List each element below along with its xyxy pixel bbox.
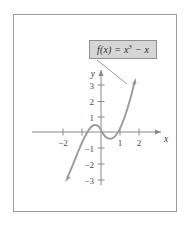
cubic-tail: − x xyxy=(132,45,149,56)
x-tick-label-1: 1 xyxy=(118,138,123,148)
cubic-plot: −2 1 2 3 2 1 −1 −2 −3 y x xyxy=(0,0,193,229)
y-tick-label-minus2: −2 xyxy=(84,160,94,170)
y-tick-label-minus1: −1 xyxy=(84,144,94,154)
y-tick-label-minus3: −3 xyxy=(84,176,94,186)
x-axis-arrowhead xyxy=(155,129,161,134)
y-axis-arrowhead xyxy=(98,70,103,76)
x-axis xyxy=(32,129,161,134)
function-arg: (x) = xyxy=(100,45,124,56)
curve-arrowhead-start xyxy=(65,176,70,182)
figure-root: −2 1 2 3 2 1 −1 −2 −3 y x f(x) = x3 − x xyxy=(0,0,193,229)
curve-arrowhead-end xyxy=(132,78,136,85)
equation-callout-box: f(x) = x3 − x xyxy=(89,40,157,59)
x-tick-label-2: 2 xyxy=(137,138,142,148)
x-tick-label-minus2: −2 xyxy=(58,138,68,148)
y-tick-label-2: 2 xyxy=(90,97,95,107)
y-axis-label: y xyxy=(90,69,96,79)
equation-label: f(x) = x3 − x xyxy=(97,43,149,55)
y-tick-label-1: 1 xyxy=(90,113,95,123)
x-axis-label: x xyxy=(163,134,169,144)
y-tick-label-3: 3 xyxy=(90,81,95,91)
